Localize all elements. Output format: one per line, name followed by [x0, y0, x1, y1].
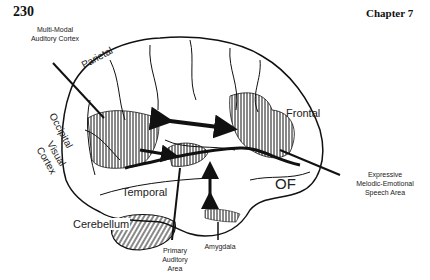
callout-amygdala: Amygdala — [200, 242, 240, 251]
multimodal-auditory-area — [88, 111, 159, 169]
label-orbitofrontal: OF — [275, 175, 296, 192]
label-temporal: Temporal — [122, 186, 167, 198]
label-frontal: Frontal — [286, 107, 320, 119]
callout-multimodal: Multi-Modal Auditory Cortex — [20, 25, 90, 43]
primary-auditory-area — [168, 143, 208, 166]
label-cerebellum: Cerebellum — [72, 218, 130, 230]
amygdala-area — [205, 209, 240, 222]
callout-primary-auditory: Primary Auditory Area — [150, 246, 200, 273]
multimodal-leader — [53, 63, 104, 118]
callout-expressive: Expressive Melodic-Emotional Speech Area — [345, 170, 425, 197]
